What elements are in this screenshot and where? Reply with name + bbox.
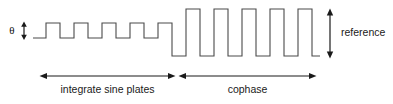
reference-arrow-head-up — [327, 9, 333, 16]
cophase-span-arrow — [179, 73, 317, 79]
reference-arrow-head-down — [327, 52, 333, 59]
cophase-label: cophase — [228, 83, 268, 95]
integrate-sine-plates-span-arrow — [40, 73, 176, 79]
left-span-arrow-head-start — [40, 73, 48, 79]
theta-label: θ — [9, 24, 14, 36]
theta-arrow-head-up — [21, 22, 27, 27]
square-wave-timing-svg: θ reference integrate sine plates cophas… — [0, 0, 393, 104]
integrate-sine-plates-label: integrate sine plates — [61, 83, 155, 95]
right-span-arrow-head-end — [309, 73, 317, 79]
timing-diagram-figure: θ reference integrate sine plates cophas… — [0, 0, 393, 104]
theta-arrow-head-down — [21, 35, 27, 40]
square-wave-trace — [33, 9, 320, 56]
reference-amplitude-arrow — [327, 9, 333, 59]
theta-amplitude-arrow — [21, 22, 27, 41]
right-span-arrow-head-start — [179, 73, 187, 79]
reference-label: reference — [341, 26, 386, 38]
left-span-arrow-head-end — [168, 73, 176, 79]
